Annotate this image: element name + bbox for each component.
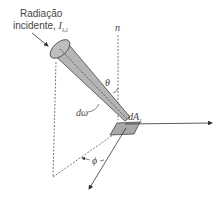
domega-leader — [88, 104, 99, 112]
phi-leader-right — [100, 160, 104, 161]
normal-label: n — [115, 22, 120, 33]
radiation-diagram: Radiação incidente, Iλ,i n θ dω dA1 ϕ — [0, 0, 222, 203]
title-incidente: incidente, Iλ,i — [13, 20, 68, 36]
area-subscript: 1 — [139, 118, 142, 124]
phi-leader — [82, 158, 90, 160]
area-label: dA1 — [128, 111, 142, 127]
domega-label: dω — [76, 107, 88, 118]
projection-line-vertical — [53, 62, 56, 177]
title-radiacao: Radiação — [20, 8, 62, 19]
title-incidente-text: incidente, — [13, 20, 56, 31]
projection-line-horizontal — [53, 130, 120, 177]
phi-label: ϕ — [92, 155, 97, 166]
theta-leader — [113, 88, 118, 93]
area-label-text: dA — [128, 111, 139, 122]
theta-label: θ — [105, 77, 110, 88]
intensity-subscript: λ,i — [62, 27, 68, 33]
